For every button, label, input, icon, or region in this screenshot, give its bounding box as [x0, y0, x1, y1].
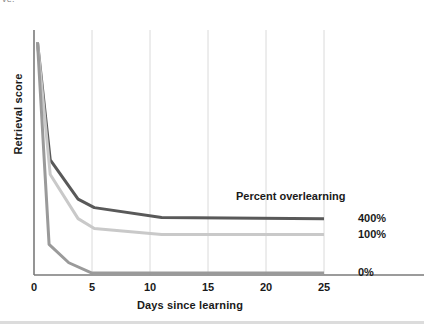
- footer-divider: [0, 321, 424, 324]
- x-tick-label-25: 25: [309, 281, 339, 293]
- x-axis-title: Days since learning: [0, 299, 380, 311]
- y-axis-title: Retrieval score: [12, 64, 24, 164]
- series-line-0%: [37, 42, 324, 273]
- x-tick-label-0: 0: [19, 281, 49, 293]
- x-tick-label-15: 15: [193, 281, 223, 293]
- series-line-100%: [37, 42, 324, 234]
- series-label-400%: 400%: [358, 212, 386, 224]
- x-tick-label-5: 5: [77, 281, 107, 293]
- series-lines-group: [37, 42, 324, 273]
- x-tick-label-20: 20: [251, 281, 281, 293]
- series-label-100%: 100%: [358, 228, 386, 240]
- chart-figure: ve. Retrieval score Days since learning …: [0, 0, 424, 333]
- series-label-0%: 0%: [358, 266, 374, 278]
- x-tick-label-10: 10: [135, 281, 165, 293]
- gridlines-group: [92, 30, 324, 275]
- series-annotation-label: Percent overlearning: [236, 190, 345, 202]
